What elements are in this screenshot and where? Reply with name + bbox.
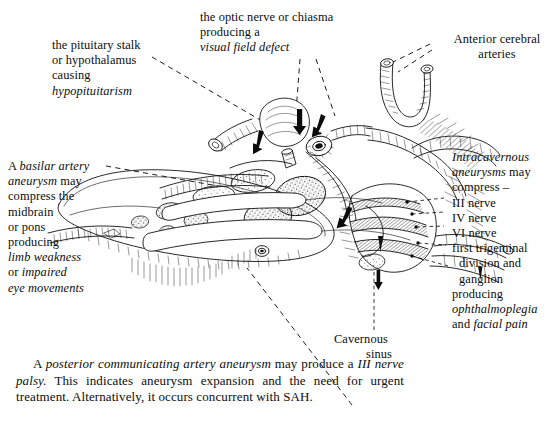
label-line: aneurysm may bbox=[8, 174, 112, 189]
anterior-cerebral-arteries-label: Anterior cerebral arteries bbox=[438, 32, 556, 62]
label-line: the pituitary stalk bbox=[52, 38, 182, 53]
label-line: first trigeminal bbox=[452, 241, 559, 256]
caption-text: A bbox=[33, 356, 46, 371]
label-text-emphasis: aneurysm bbox=[8, 174, 57, 188]
label-line: III nerve bbox=[452, 196, 559, 211]
label-line: causing bbox=[52, 68, 182, 83]
label-text-emphasis: facial pain bbox=[473, 317, 527, 331]
label-line: IV nerve bbox=[452, 211, 559, 226]
label-text-emphasis: basilar artery bbox=[20, 159, 90, 173]
posterior-communicating-caption: A posterior communicating artery aneurys… bbox=[16, 356, 404, 406]
label-text: or bbox=[8, 265, 22, 279]
label-line-emphasis: limb weakness bbox=[8, 250, 112, 265]
anterior-cerebral-arteries-vessel bbox=[380, 58, 433, 127]
label-line: or impaired bbox=[8, 265, 112, 280]
label-line-emphasis: hypopituitarism bbox=[52, 84, 182, 99]
label-line: producing bbox=[8, 235, 112, 250]
label-line: or pons bbox=[8, 220, 112, 235]
label-text-emphasis: impaired bbox=[22, 265, 67, 279]
label-line-emphasis: visual field defect bbox=[200, 40, 380, 55]
label-line-emphasis: ophthalmoplegia bbox=[452, 302, 559, 317]
label-line: Cavernous bbox=[334, 332, 446, 347]
basilar-artery-aneurysm-label: A basilar artery aneurysm may compress t… bbox=[8, 159, 112, 296]
label-line: VI nerve bbox=[452, 226, 559, 241]
optic-nerve-label: the optic nerve or chiasma producing a v… bbox=[200, 10, 380, 56]
label-line: producing a bbox=[200, 25, 380, 40]
label-line: aneurysms may bbox=[452, 165, 559, 180]
figure-canvas: the pituitary stalk or hypothalamus caus… bbox=[0, 0, 559, 426]
label-text: A bbox=[8, 159, 20, 173]
intracavernous-aneurysms-label: Intracavernous aneurysms may compress – … bbox=[452, 150, 559, 332]
caption-text-emphasis: posterior communicating artery aneurysm bbox=[46, 356, 271, 371]
pituitary-stalk-stump bbox=[281, 148, 296, 168]
vessel-cross-section bbox=[255, 246, 269, 257]
label-line: Anterior cerebral bbox=[438, 32, 556, 47]
label-line: compress the bbox=[8, 189, 112, 204]
label-line: division and bbox=[452, 256, 559, 271]
label-line: compress – bbox=[452, 180, 559, 195]
brainstem-under-shading bbox=[132, 248, 256, 286]
label-text: may bbox=[57, 174, 82, 188]
label-line: A basilar artery bbox=[8, 159, 112, 174]
label-line: the optic nerve or chiasma bbox=[200, 10, 380, 25]
caption-text: This indicates aneurysm expansion and th… bbox=[16, 373, 404, 405]
label-line: ganglion bbox=[452, 272, 559, 287]
label-line: producing bbox=[452, 287, 559, 302]
label-line-emphasis: Intracavernous bbox=[452, 150, 559, 165]
label-text-emphasis: aneurysms bbox=[452, 165, 506, 179]
optic-nerve-stump bbox=[206, 119, 258, 154]
label-line: or hypothalamus bbox=[52, 53, 182, 68]
caption-text: may produce a bbox=[271, 356, 358, 371]
pituitary-stalk-label: the pituitary stalk or hypothalamus caus… bbox=[52, 38, 182, 99]
label-line: and facial pain bbox=[452, 317, 559, 332]
label-line-emphasis: eye movements bbox=[8, 281, 112, 296]
label-text: and bbox=[452, 317, 473, 331]
label-line: midbrain bbox=[8, 205, 112, 220]
label-line: arteries bbox=[438, 47, 556, 62]
label-text: may bbox=[506, 165, 531, 179]
